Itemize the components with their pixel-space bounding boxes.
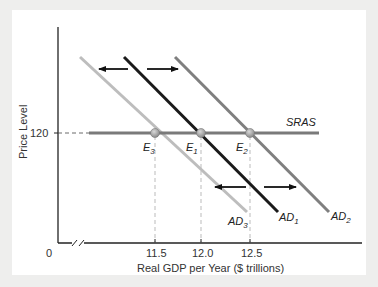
label-ad2: AD2 [330,210,351,225]
point-e2-icon [246,129,255,138]
axis-break-icon [72,238,84,248]
label-e1: E1 [186,141,198,156]
x-axis-title: Real GDP per Year ($ trillions) [137,262,284,274]
x-tick-label-origin: 0 [46,247,52,259]
label-sras: SRAS [286,116,317,128]
label-e3: E3 [143,141,155,156]
x-tick-label-12.5: 12.5 [241,247,262,259]
ad-sras-chart: E3 E1 E2 SRAS AD3 AD1 AD2 120 0 11.5 12.… [0,0,378,287]
y-axis-title: Price Level [17,105,29,159]
label-e2: E2 [236,141,248,156]
label-ad3: AD3 [227,215,248,230]
point-e1-icon [197,129,206,138]
point-e3-icon [151,129,160,138]
x-tick-label-11.5: 11.5 [146,247,167,259]
y-tick-label-120: 120 [30,127,48,139]
label-ad1: AD1 [278,211,299,226]
x-tick-label-12.0: 12.0 [192,247,213,259]
